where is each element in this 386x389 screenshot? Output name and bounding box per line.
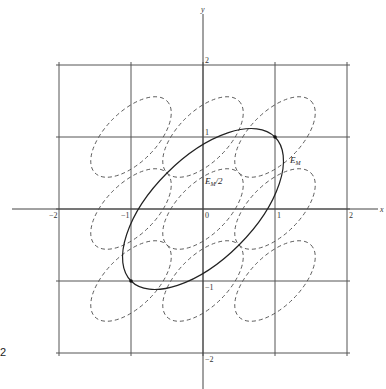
y-axis-label: y xyxy=(200,5,205,14)
x-tick-label: −1 xyxy=(121,211,130,220)
x-tick-label: 2 xyxy=(349,211,353,220)
x-axis-label: x xyxy=(379,205,384,214)
x-tick-label: −2 xyxy=(49,211,58,220)
side-label: 2 xyxy=(0,346,6,358)
em-label: EM xyxy=(289,155,302,166)
lattice-point-marker xyxy=(273,135,277,139)
y-tick-label: −1 xyxy=(205,283,214,292)
y-tick-label: 2 xyxy=(205,56,209,65)
x-tick-label: 1 xyxy=(277,211,281,220)
grid xyxy=(12,14,378,389)
y-tick-label: 1 xyxy=(205,128,209,137)
lattice-point-marker xyxy=(129,279,133,283)
lattice-ellipse-diagram: −2−101221−1−2xy 2 EM EM/2 xyxy=(0,0,386,389)
x-tick-label: 0 xyxy=(205,211,209,220)
y-tick-label: −2 xyxy=(205,355,214,364)
em-half-label: EM/2 xyxy=(204,176,223,187)
